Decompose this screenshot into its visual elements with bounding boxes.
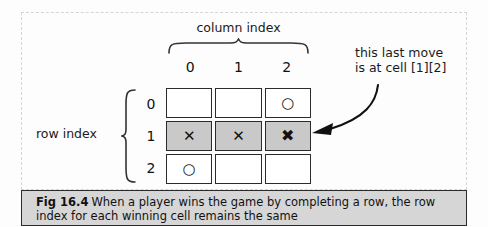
cross-mark-bold-icon: ✖ <box>281 128 294 144</box>
column-number-2: 2 <box>263 58 311 76</box>
figure-container: column index 0 1 2 row index 0 1 2 ○ <box>0 0 488 227</box>
annotation-callout: this last move is at cell [1][2] <box>355 45 470 75</box>
column-number-0: 0 <box>166 58 214 76</box>
annotation-line-2: is at cell [1][2] <box>355 60 470 75</box>
row-number-0: 0 <box>141 88 161 120</box>
annotation-line-1: this last move <box>355 45 470 60</box>
figure-caption-text: When a player wins the game by completin… <box>36 195 435 223</box>
row-number-2: 2 <box>141 152 161 184</box>
column-brace-icon <box>166 38 311 54</box>
column-number-1: 1 <box>214 58 262 76</box>
cross-mark-icon: ✕ <box>183 129 196 144</box>
cross-mark-icon: ✕ <box>232 129 245 144</box>
board-cell-2-0[interactable]: ○ <box>166 154 212 184</box>
board-cell-2-1[interactable] <box>215 154 261 184</box>
board-cell-0-1[interactable] <box>215 88 261 118</box>
figure-number: Fig 16.4 <box>36 195 88 209</box>
board-cell-1-1[interactable]: ✕ <box>215 121 261 151</box>
row-number-column: 0 1 2 <box>141 88 161 184</box>
board-cell-1-0[interactable]: ✕ <box>166 121 212 151</box>
row-number-1: 1 <box>141 120 161 152</box>
row-index-label: row index <box>36 126 97 141</box>
nought-mark-icon: ○ <box>183 162 196 177</box>
annotation-arrow-icon <box>300 80 395 145</box>
board-cell-2-2[interactable] <box>265 154 311 184</box>
row-brace-icon <box>121 88 137 184</box>
nought-mark-icon: ○ <box>281 96 294 111</box>
figure-caption: Fig 16.4When a player wins the game by c… <box>36 195 460 223</box>
column-number-row: 0 1 2 <box>166 58 311 76</box>
tic-tac-toe-board: ○ ✕ ✕ ✖ ○ <box>166 88 311 184</box>
board-cell-0-0[interactable] <box>166 88 212 118</box>
figure-caption-box: Fig 16.4When a player wins the game by c… <box>21 190 467 226</box>
column-index-label: column index <box>166 20 311 35</box>
